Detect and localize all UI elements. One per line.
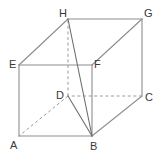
vertex-label-d: D: [56, 90, 64, 101]
vertex-label-b: B: [90, 141, 97, 152]
vertex-label-g: G: [144, 8, 153, 19]
vertex-label-c: C: [145, 92, 153, 103]
edge-D-A: [19, 96, 68, 136]
geometry-figure: ABCDEFGH: [0, 0, 159, 156]
vertex-label-e: E: [9, 59, 16, 70]
vertex-label-h: H: [59, 8, 67, 19]
diagonal-layer: [68, 19, 92, 136]
vertex-label-f: F: [94, 59, 101, 70]
vertex-label-a: A: [10, 140, 17, 151]
edge-B-C: [92, 96, 142, 136]
diagonal-H-B: [68, 19, 92, 136]
cube-drawing: [0, 0, 159, 156]
edge-H-E: [19, 19, 68, 65]
